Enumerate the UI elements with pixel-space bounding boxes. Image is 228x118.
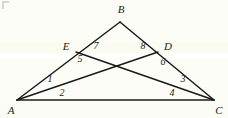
angle-label-4: 4: [170, 88, 175, 98]
cevian-CE: [76, 52, 214, 100]
vertex-label-B: B: [118, 4, 125, 15]
geometry-diagram-screenshot: BEDAC78561324: [0, 0, 228, 118]
vertex-label-E: E: [63, 41, 70, 52]
cevian-AD: [17, 52, 158, 100]
side-BC: [120, 22, 214, 100]
vertex-label-C: C: [215, 105, 222, 116]
angle-label-5: 5: [78, 54, 83, 64]
segment-group: [17, 22, 214, 100]
side-AB: [17, 22, 120, 100]
angle-label-3: 3: [181, 74, 186, 84]
vertex-label-D: D: [164, 41, 172, 52]
vertex-label-A: A: [8, 105, 15, 116]
triangle-figure: [0, 0, 228, 118]
angle-label-6: 6: [161, 57, 166, 67]
angle-label-1: 1: [48, 74, 53, 84]
angle-label-7: 7: [94, 41, 99, 51]
angle-label-8: 8: [141, 41, 146, 51]
angle-label-2: 2: [60, 88, 65, 98]
